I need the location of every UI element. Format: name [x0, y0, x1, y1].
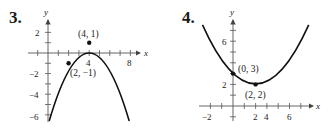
point-vertex — [253, 82, 257, 86]
y-axis-label: y — [43, 7, 48, 17]
y-axis-label: y — [229, 7, 234, 17]
point-label: (0, 3) — [238, 64, 259, 75]
point-label: (4, 1) — [78, 29, 99, 40]
y-tick-label: −2 — [29, 69, 39, 79]
x-tick-label: 8 — [127, 58, 132, 68]
point-label: (2, −1) — [70, 68, 96, 79]
x-axis-label: x — [143, 48, 148, 58]
x-tick-label: 4 — [264, 112, 269, 122]
x-tick-label: 2 — [253, 112, 258, 122]
x-tick-label: 4 — [86, 58, 91, 68]
y-tick-label: 6 — [222, 37, 227, 47]
y-tick-label: −4 — [29, 90, 39, 100]
point-label: (2, 2) — [245, 90, 266, 101]
point-2-neg1 — [66, 61, 70, 65]
x-tick-label: −2 — [202, 112, 212, 122]
graph-panel-3: 3. — [0, 0, 166, 133]
point-0-3 — [231, 71, 235, 75]
parabola-graph-4: y x −2 2 4 6 2 6 (0, 3) (2, 2) — [166, 0, 332, 133]
y-tick-label: 2 — [35, 28, 40, 38]
point-vertex — [87, 41, 91, 45]
parabola-curve — [203, 25, 309, 84]
y-tick-label: −6 — [29, 112, 39, 122]
x-tick-label: 6 — [287, 112, 292, 122]
y-tick-label: 2 — [222, 80, 227, 90]
x-axis-label: x — [315, 101, 320, 111]
parabola-graph-3: y x 4 8 2 −2 −4 −6 (4, 1) (2, −1) — [0, 0, 166, 133]
graph-panel-4: 4. — [166, 0, 332, 133]
